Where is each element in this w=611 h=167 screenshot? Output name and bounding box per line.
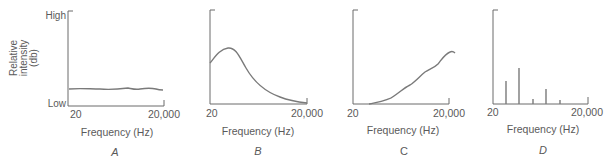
panel-label-a: A — [110, 146, 118, 158]
curve-b — [210, 48, 307, 103]
panel-label-b: B — [254, 145, 261, 157]
panel-d: 20 20,000 Frequency (Hz) D — [487, 10, 603, 156]
x-label-a: Frequency (Hz) — [81, 126, 153, 138]
axes-c — [353, 10, 449, 104]
panel-label-c: C — [400, 145, 408, 157]
x-min-b: 20 — [206, 107, 218, 119]
curve-c — [369, 52, 455, 104]
panel-label-d: D — [539, 144, 547, 156]
axes-d — [493, 10, 588, 104]
axes-a — [68, 11, 164, 106]
x-label-c: Frequency (Hz) — [367, 124, 439, 136]
y-tick-low: Low — [48, 98, 67, 109]
spectrum-figure: Relative intensity (db) High Low 20 20,0… — [0, 0, 611, 167]
spikes-d — [506, 68, 560, 104]
panel-a: 20 20,000 Frequency (Hz) A — [68, 11, 180, 158]
x-min-d: 20 — [487, 106, 499, 118]
curve-a — [69, 88, 163, 90]
svg-text:(db): (db) — [28, 49, 39, 67]
x-min-c: 20 — [347, 107, 359, 119]
x-max-a: 20,000 — [148, 108, 180, 120]
x-max-c: 20,000 — [433, 107, 465, 119]
panel-c: 20 20,000 Frequency (Hz) C — [347, 10, 465, 157]
panel-b: 20 20,000 Frequency (Hz) B — [206, 10, 323, 157]
x-max-b: 20,000 — [291, 107, 323, 119]
y-axis-label: Relative intensity (db) — [8, 40, 39, 77]
x-label-d: Frequency (Hz) — [507, 123, 579, 135]
x-min-a: 20 — [70, 108, 82, 120]
x-label-b: Frequency (Hz) — [222, 125, 294, 137]
y-tick-high: High — [45, 10, 66, 21]
x-max-d: 20,000 — [571, 106, 603, 118]
axes-b — [210, 10, 307, 104]
